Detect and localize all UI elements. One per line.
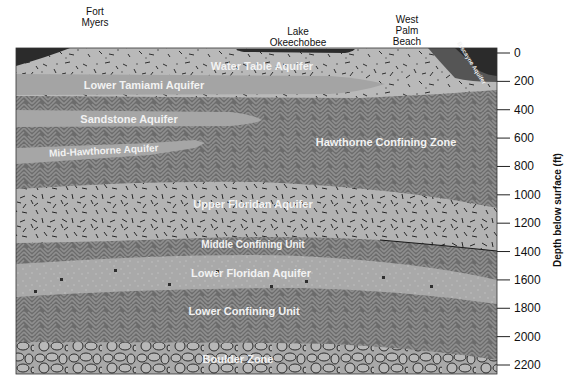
label-water-table-aquifer: Water Table Aquifer <box>211 60 314 72</box>
location-fort-myers: Fort Myers <box>70 6 120 28</box>
location-line: West <box>382 14 432 25</box>
depth-tick-label: 2000 <box>514 331 541 343</box>
depth-tick-label: 400 <box>514 104 534 116</box>
label-sandstone-aquifer: Sandstone Aquifer <box>80 113 178 125</box>
depth-tick-label: 1600 <box>514 274 541 286</box>
location-west-palm-beach: West Palm Beach <box>382 14 432 47</box>
depth-axis-ticks <box>497 53 510 365</box>
depth-tick-label: 600 <box>514 132 534 144</box>
label-lower-tamiami-aquifer: Lower Tamiami Aquifer <box>84 79 205 91</box>
depth-tick-label: 0 <box>514 47 521 59</box>
label-boulder-zone: Boulder Zone <box>203 353 274 365</box>
depth-tick-label: 2200 <box>514 359 541 371</box>
depth-tick-label: 200 <box>514 75 534 87</box>
label-lower-confining-unit: Lower Confining Unit <box>188 305 300 317</box>
label-middle-confining-unit: Middle Confining Unit <box>201 239 305 250</box>
location-line: Fort <box>70 6 120 17</box>
location-line: Okeechobee <box>263 37 333 48</box>
location-lake-okeechobee: Lake Okeechobee <box>263 26 333 48</box>
label-upper-floridan-aquifer: Upper Floridan Aquifer <box>193 198 313 210</box>
depth-tick-label: 800 <box>514 160 534 172</box>
depth-tick-label: 1000 <box>514 189 541 201</box>
depth-tick-label: 1400 <box>514 246 541 258</box>
depth-axis-title: Depth below surface (ft) <box>552 153 563 267</box>
location-line: Palm <box>382 25 432 36</box>
label-hawthorne-confining-zone: Hawthorne Confining Zone <box>316 136 457 148</box>
label-lower-floridan-aquifer: Lower Floridan Aquifer <box>191 267 312 279</box>
location-line: Lake <box>263 26 333 37</box>
depth-tick-label: 1200 <box>514 217 541 229</box>
location-line: Myers <box>70 17 120 28</box>
depth-tick-label: 1800 <box>514 302 541 314</box>
aquifer-cross-section: Water Table Aquifer Lower Tamiami Aquife… <box>0 0 571 389</box>
location-line: Beach <box>382 36 432 47</box>
